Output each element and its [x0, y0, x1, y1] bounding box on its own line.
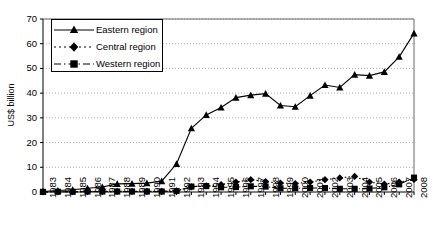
x-axis-tick-label: 1983 [47, 177, 58, 198]
legend-item-western: Western region [52, 55, 164, 72]
x-axis-tick-label: 1989 [136, 177, 147, 198]
y-axis-tick-label: 10 [15, 161, 37, 172]
x-axis-tick-label: 2000 [299, 177, 310, 198]
legend-item-eastern: Eastern region [52, 21, 164, 38]
x-axis-tick-label: 1988 [121, 177, 132, 198]
x-axis-tick-label: 1993 [195, 177, 206, 198]
legend-label-central: Central region [96, 41, 156, 52]
legend: Eastern region Central region Western re… [51, 19, 163, 72]
y-axis-tick-label: 70 [15, 13, 37, 24]
x-axis-tick-label: 1985 [77, 177, 88, 198]
y-axis-tick-label: 20 [15, 137, 37, 148]
x-axis-tick-label: 1986 [92, 177, 103, 198]
x-axis-tick-label: 2005 [373, 177, 384, 198]
legend-label-eastern: Eastern region [96, 24, 158, 35]
x-axis-tick-label: 1999 [284, 177, 295, 198]
x-axis-tick-label: 2006 [388, 177, 399, 198]
x-axis-tick-label: 1994 [210, 177, 221, 198]
x-axis-tick-label: 1987 [106, 177, 117, 198]
line-chart: US$ billion 010203040506070 198319841985… [0, 0, 436, 250]
x-axis-tick-label: 1992 [181, 177, 192, 198]
legend-swatch-eastern-icon [52, 22, 96, 38]
x-axis-tick-label: 1991 [166, 177, 177, 198]
y-axis-tick-label: 0 [15, 186, 37, 197]
x-axis-tick-label: 1995 [225, 177, 236, 198]
y-axis-tick-label: 40 [15, 87, 37, 98]
x-axis-tick-label: 2007 [403, 177, 414, 198]
y-axis-tick-label: 30 [15, 112, 37, 123]
legend-swatch-western-icon [52, 56, 96, 72]
legend-label-western: Western region [96, 58, 160, 69]
legend-swatch-central-icon [52, 39, 96, 55]
x-axis-tick-label: 2001 [314, 177, 325, 198]
x-axis-tick-label: 1997 [255, 177, 266, 198]
y-axis-tick-label: 60 [15, 38, 37, 49]
y-axis-tick-label: 50 [15, 62, 37, 73]
x-axis-tick-label: 1984 [62, 177, 73, 198]
x-axis-tick-label: 2003 [344, 177, 355, 198]
x-axis-tick-label: 2002 [329, 177, 340, 198]
x-axis-tick-label: 2004 [359, 177, 370, 198]
x-axis-tick-label: 2008 [418, 177, 429, 198]
x-axis-tick-label: 1996 [240, 177, 251, 198]
x-axis-tick-label: 1990 [151, 177, 162, 198]
legend-item-central: Central region [52, 38, 164, 55]
x-axis-tick-label: 1998 [270, 177, 281, 198]
